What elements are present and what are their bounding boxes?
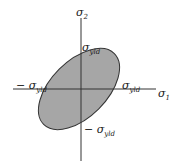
right-subscript: yld [130, 86, 141, 94]
left-subscript: yld [36, 86, 47, 94]
sigma2-symbol: σ [76, 6, 84, 19]
bottom-minus: − [84, 123, 97, 136]
intercept-left-label: − σyld [16, 76, 47, 94]
sigma1-symbol: σ [158, 87, 166, 100]
intercept-right-label: σyld [122, 76, 140, 94]
top-symbol: σ [82, 41, 90, 54]
sigma2-axis-label: σ2 [76, 3, 88, 21]
sigma2-subscript: 2 [84, 13, 88, 21]
sigma1-subscript: 1 [166, 94, 170, 102]
bottom-subscript: yld [104, 130, 115, 138]
left-minus: − [16, 79, 29, 92]
right-symbol: σ [122, 79, 130, 92]
top-subscript: yld [90, 48, 101, 56]
intercept-bottom-label: − σyld [84, 120, 115, 138]
intercept-top-label: σyld [82, 38, 100, 56]
sigma1-axis-label: σ1 [158, 84, 170, 102]
